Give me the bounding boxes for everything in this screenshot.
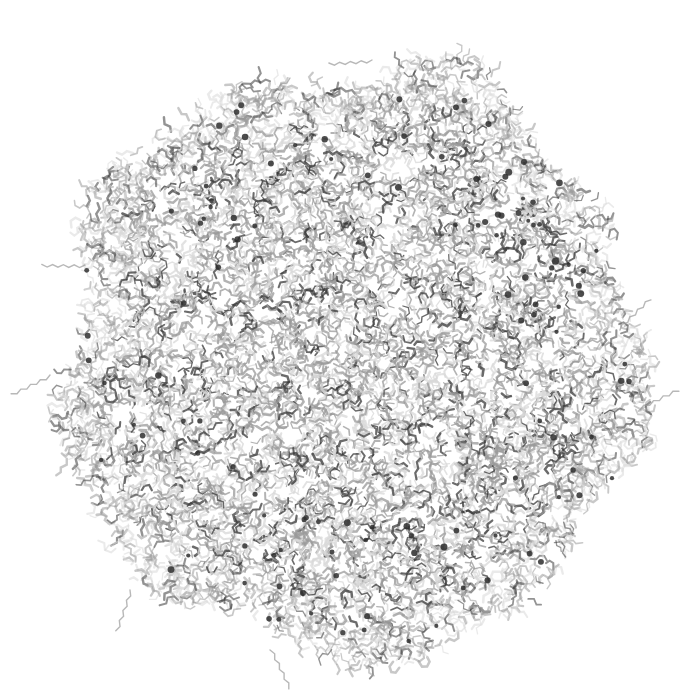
molecule-render [0,0,700,692]
molecule-canvas [0,0,700,692]
